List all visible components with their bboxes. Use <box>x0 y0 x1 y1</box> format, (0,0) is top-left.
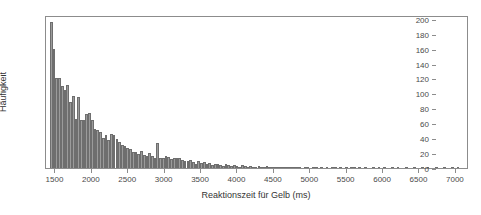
x-axis-tick-label: 5500 <box>337 175 355 184</box>
x-axis-tick-label: 6500 <box>410 175 428 184</box>
x-axis-tick <box>455 169 456 173</box>
histogram-bar <box>364 167 367 168</box>
histogram-bar <box>345 167 348 168</box>
histogram-bar <box>358 167 361 168</box>
bars-layer <box>46 17 467 168</box>
x-axis-tick <box>164 169 165 173</box>
y-axis-tick <box>432 169 436 170</box>
x-axis-tick <box>346 169 347 173</box>
y-axis-tick-label: 60 <box>420 120 429 129</box>
histogram-bar <box>372 167 375 168</box>
histogram-figure: Häufigkeit Reaktionszeit für Gelb (ms) 0… <box>0 0 481 215</box>
y-axis-tick-label: 0 <box>425 165 429 174</box>
y-axis-tick-label: 200 <box>416 15 429 24</box>
x-axis-tick <box>236 169 237 173</box>
plot-area <box>45 16 468 169</box>
y-axis-tick-label: 20 <box>420 150 429 159</box>
x-axis-tick-label: 5000 <box>300 175 318 184</box>
y-axis-tick-label: 160 <box>416 45 429 54</box>
x-axis-tick <box>382 169 383 173</box>
y-axis-tick <box>432 20 436 21</box>
y-axis-tick <box>432 139 436 140</box>
x-axis-tick <box>309 169 310 173</box>
y-axis-tick <box>432 154 436 155</box>
y-axis <box>0 0 45 215</box>
y-axis-tick-label: 40 <box>420 135 429 144</box>
histogram-bar <box>413 167 416 168</box>
histogram-bar <box>320 167 323 168</box>
histogram-bar <box>339 167 342 168</box>
y-axis-tick <box>432 94 436 95</box>
x-axis-tick-label: 3000 <box>155 175 173 184</box>
histogram-bar <box>378 167 381 168</box>
histogram-bar <box>298 167 301 168</box>
histogram-bar <box>334 167 337 168</box>
x-axis-tick-label: 1500 <box>46 175 64 184</box>
y-axis-tick <box>432 124 436 125</box>
y-axis-tick-label: 80 <box>420 105 429 114</box>
y-axis-tick <box>432 35 436 36</box>
y-axis-tick <box>432 65 436 66</box>
histogram-bar <box>383 167 386 168</box>
x-axis-tick-label: 7000 <box>446 175 464 184</box>
histogram-bar <box>353 167 356 168</box>
histogram-bar <box>326 167 329 168</box>
histogram-bar <box>457 167 460 168</box>
y-axis-tick-label: 140 <box>416 60 429 69</box>
histogram-bar <box>443 167 446 168</box>
histogram-bar <box>405 167 408 168</box>
x-axis-tick-label: 4500 <box>264 175 282 184</box>
x-axis-tick-label: 3500 <box>191 175 209 184</box>
histogram-bar <box>307 167 310 168</box>
histogram-bar <box>451 167 454 168</box>
x-axis-title: Reaktionszeit für Gelb (ms) <box>201 190 310 200</box>
x-axis-tick <box>127 169 128 173</box>
x-axis-tick-label: 2500 <box>118 175 136 184</box>
histogram-bar <box>435 167 438 168</box>
x-axis-tick <box>200 169 201 173</box>
y-axis-tick-label: 120 <box>416 75 429 84</box>
y-axis-tick-label: 180 <box>416 30 429 39</box>
histogram-bar <box>397 167 400 168</box>
y-axis-tick-label: 100 <box>416 90 429 99</box>
x-axis-tick <box>273 169 274 173</box>
x-axis-tick <box>54 169 55 173</box>
histogram-bar <box>391 167 394 168</box>
y-axis-tick <box>432 109 436 110</box>
x-axis-tick-label: 6000 <box>373 175 391 184</box>
x-axis-tick <box>91 169 92 173</box>
x-axis-tick-label: 4000 <box>228 175 246 184</box>
histogram-bar <box>315 167 318 168</box>
x-axis-tick <box>418 169 419 173</box>
x-axis-tick-label: 2000 <box>82 175 100 184</box>
y-axis-tick <box>432 79 436 80</box>
y-axis-tick <box>432 50 436 51</box>
